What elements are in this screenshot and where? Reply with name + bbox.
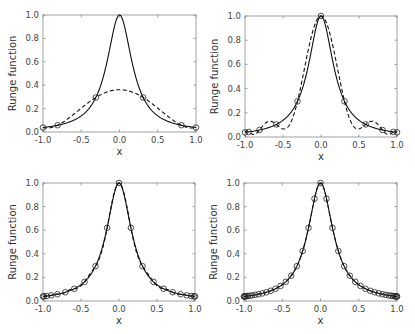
y-tick-label: 0.6 (25, 225, 39, 235)
x-tick-label: 1.0 (189, 135, 203, 145)
y-tick-label: 0.0 (25, 127, 39, 137)
axes-box (245, 16, 397, 137)
y-tick-label: 0.6 (25, 57, 39, 67)
chart-panel-4: -1.0-0.50.00.51.00.00.20.40.60.81.0xRung… (208, 178, 404, 326)
x-axis-label: x (318, 151, 324, 162)
y-tick-label: 0.0 (25, 296, 39, 306)
y-tick-label: 1.0 (25, 178, 39, 188)
y-tick-label: 0.0 (226, 296, 240, 306)
interpolant-curve (245, 16, 397, 134)
y-tick-label: 1.0 (226, 178, 240, 188)
y-axis-label: Runge function (209, 39, 220, 115)
axes-box (244, 183, 397, 301)
y-tick-label: 0.4 (25, 80, 39, 90)
x-tick-label: 0.5 (352, 304, 366, 314)
y-tick-label: 0.2 (226, 272, 240, 282)
interpolant-curve (43, 90, 196, 128)
figure-canvas: -1.0-0.50.00.51.00.00.20.40.60.81.0xRung… (0, 0, 415, 334)
x-tick-label: 0.0 (113, 135, 127, 145)
y-tick-label: 0.4 (226, 249, 240, 259)
x-tick-label: 0.0 (314, 304, 328, 314)
y-axis-label: Runge function (7, 204, 18, 280)
runge-curve (43, 15, 196, 128)
x-tick-label: -0.5 (274, 304, 291, 314)
y-tick-label: 0.2 (25, 272, 39, 282)
y-tick-label: 0.8 (25, 33, 39, 43)
y-axis-label: Runge function (208, 204, 219, 280)
y-tick-label: 1.0 (227, 11, 241, 21)
y-tick-label: 1.0 (25, 10, 39, 20)
runge-curve (244, 183, 397, 296)
y-tick-label: 0.4 (25, 249, 39, 259)
x-tick-label: 1.0 (390, 140, 404, 150)
x-tick-label: -0.5 (73, 304, 90, 314)
chart-panel-3: -1.0-0.50.00.51.00.00.20.40.60.81.0xRung… (7, 178, 202, 326)
axes-box (43, 183, 195, 301)
runge-curve (43, 183, 195, 296)
x-axis-label: x (116, 315, 122, 326)
x-tick-label: 0.0 (314, 140, 328, 150)
y-tick-label: 0.8 (226, 202, 240, 212)
y-tick-label: 0.4 (227, 84, 241, 94)
axes-box (43, 15, 196, 132)
chart-panel-1: -1.0-0.50.00.51.00.00.20.40.60.81.0xRung… (7, 10, 203, 157)
runge-curve (245, 16, 397, 132)
x-tick-label: -0.5 (73, 135, 90, 145)
y-axis-label: Runge function (7, 36, 18, 112)
x-tick-label: 1.0 (390, 304, 404, 314)
y-tick-label: 0.2 (227, 108, 241, 118)
y-tick-label: 0.6 (226, 225, 240, 235)
x-tick-label: 0.0 (112, 304, 126, 314)
x-axis-label: x (318, 315, 324, 326)
y-tick-label: 0.0 (227, 132, 241, 142)
x-axis-label: x (117, 146, 123, 157)
y-tick-label: 0.6 (227, 59, 241, 69)
y-tick-label: 0.8 (25, 202, 39, 212)
x-tick-label: 0.5 (150, 304, 164, 314)
y-tick-label: 0.8 (227, 35, 241, 45)
y-tick-label: 0.2 (25, 104, 39, 114)
x-tick-label: 0.5 (151, 135, 165, 145)
chart-panel-2: -1.0-0.50.00.51.00.00.20.40.60.81.0xRung… (209, 11, 404, 162)
x-tick-label: -0.5 (275, 140, 292, 150)
x-tick-label: 1.0 (188, 304, 202, 314)
interpolant-curve (244, 183, 397, 296)
interpolant-curve (43, 183, 195, 296)
x-tick-label: 0.5 (352, 140, 366, 150)
